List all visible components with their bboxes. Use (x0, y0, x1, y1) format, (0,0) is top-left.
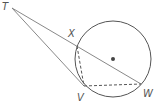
label-X: X (67, 28, 76, 39)
tangent-TV (12, 8, 84, 86)
label-T: T (2, 1, 9, 12)
label-W: W (143, 88, 154, 99)
label-V: V (77, 92, 85, 103)
geometry-diagram: T X W V (0, 0, 160, 108)
secant-TW (12, 8, 141, 84)
center-dot (111, 57, 115, 61)
chord-VW-dashed (84, 84, 141, 86)
